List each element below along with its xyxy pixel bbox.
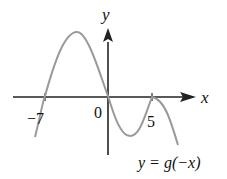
function-curve [35, 32, 178, 145]
function-label: y = g(−x) [136, 154, 200, 172]
x-axis-label: x [200, 88, 209, 107]
function-graph: y x −7 0 5 y = g(−x) [0, 0, 227, 179]
y-axis-arrow-icon [103, 28, 113, 42]
y-axis-label: y [100, 5, 110, 24]
origin-label: 0 [94, 104, 102, 121]
tick-label-neg7: −7 [27, 110, 44, 127]
tick-label-5: 5 [147, 113, 155, 130]
